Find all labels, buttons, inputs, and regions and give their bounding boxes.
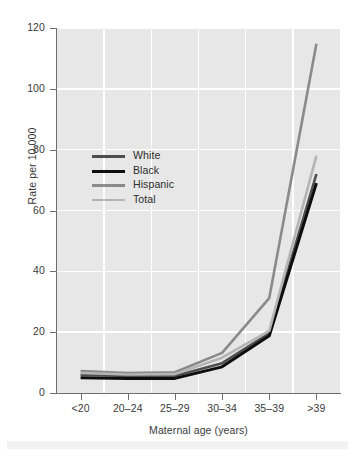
y-axis-tick-label: 80 <box>5 143 45 155</box>
chart-figure: 020406080100120 <2020–2425–2930–3435–39>… <box>0 0 355 451</box>
y-axis-tick <box>50 332 56 333</box>
legend-swatch-total <box>92 199 125 202</box>
x-axis-tick <box>269 394 270 400</box>
legend-label-hispanic: Hispanic <box>133 178 174 190</box>
x-axis-tick <box>128 394 129 400</box>
series-line-black <box>81 183 317 378</box>
series-line-total <box>81 156 317 375</box>
legend-label-white: White <box>133 149 160 161</box>
y-axis-tick <box>50 28 56 29</box>
x-axis-tick-label: >39 <box>286 402 346 414</box>
x-axis-title: Maternal age (years) <box>57 424 340 436</box>
legend-swatch-black <box>92 170 125 173</box>
x-axis-tick <box>175 394 176 400</box>
series-line-white <box>81 174 317 376</box>
y-axis-tick <box>50 150 56 151</box>
x-axis-tick <box>222 394 223 400</box>
y-axis-tick-label: 40 <box>5 264 45 276</box>
y-axis-tick-label: 60 <box>5 204 45 216</box>
legend-label-total: Total <box>133 193 156 205</box>
y-axis-line <box>56 28 57 394</box>
y-axis-tick <box>50 393 56 394</box>
y-axis-title: Rate per 10,000 <box>26 86 38 246</box>
footer-band <box>7 441 348 449</box>
x-axis-line <box>56 393 341 394</box>
x-axis-tick <box>316 394 317 400</box>
series-lines-group <box>57 28 340 393</box>
y-axis-tick <box>50 271 56 272</box>
y-axis-tick <box>50 211 56 212</box>
legend-label-black: Black <box>133 164 159 176</box>
y-axis-tick <box>50 89 56 90</box>
y-axis-tick-label: 120 <box>5 21 45 33</box>
y-axis-tick-label: 100 <box>5 82 45 94</box>
plot-area <box>57 28 340 393</box>
x-axis-tick <box>81 394 82 400</box>
series-line-hispanic <box>81 44 317 373</box>
y-axis-tick-label: 0 <box>5 386 45 398</box>
y-axis-tick-label: 20 <box>5 325 45 337</box>
legend-swatch-white <box>92 155 125 158</box>
legend-swatch-hispanic <box>92 184 125 187</box>
